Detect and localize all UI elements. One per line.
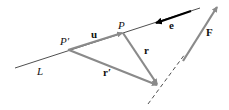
label-p: P [118, 20, 125, 31]
label-r: r [144, 45, 149, 56]
label-f: F [206, 27, 213, 38]
label-u: u [91, 29, 97, 40]
vector-diagram: L P′ P u r r′ e F [0, 0, 229, 110]
label-e: e [169, 20, 174, 31]
diagram-canvas [0, 0, 229, 110]
vector-r [123, 33, 157, 84]
label-l: L [37, 66, 43, 77]
label-r-prime: r′ [103, 67, 111, 78]
label-p-prime: P′ [60, 36, 69, 47]
